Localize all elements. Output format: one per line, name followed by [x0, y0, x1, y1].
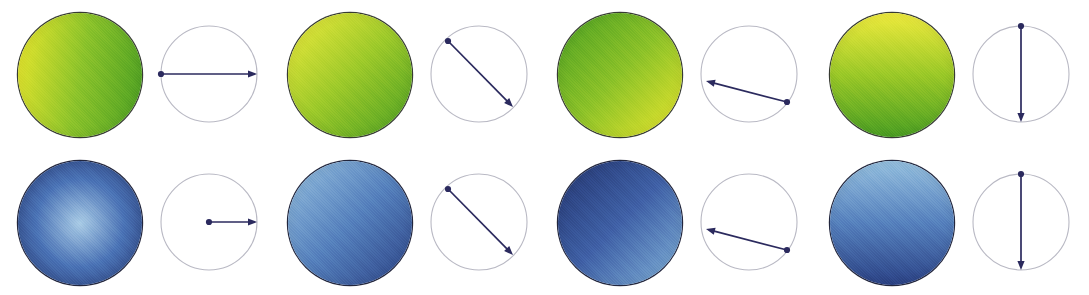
arrow-origin-dot	[1018, 171, 1024, 177]
arrow-origin-dot	[445, 38, 451, 44]
panel-1-top-cell	[0, 0, 272, 147]
blue-sphere-1	[18, 161, 142, 285]
vector-diagram-4-top	[969, 19, 1073, 129]
green-sphere-1	[18, 13, 142, 137]
panel-4	[812, 0, 1084, 295]
green-sphere-3	[558, 13, 682, 137]
arrow-origin-dot	[1018, 23, 1024, 29]
arrow-shaft	[448, 189, 508, 250]
sphere-body	[288, 161, 412, 285]
arrow-head	[248, 218, 257, 225]
panel-1	[0, 0, 272, 295]
arrow-shaft	[448, 41, 508, 102]
vector-diagram-svg	[697, 167, 801, 277]
green-sphere-2	[288, 13, 412, 137]
blue-sphere-2	[288, 161, 412, 285]
arrow-head	[706, 228, 716, 235]
arrow-shaft	[712, 231, 787, 250]
direction-arrow	[206, 218, 257, 225]
arrow-origin-dot	[206, 219, 212, 225]
sphere-body	[830, 13, 954, 137]
direction-arrow	[706, 228, 790, 253]
vector-diagram-svg	[157, 167, 261, 277]
green-sphere-4	[830, 13, 954, 137]
vector-diagram-svg	[157, 19, 261, 129]
sphere-body	[18, 161, 142, 285]
arrow-head	[1017, 113, 1024, 122]
vector-diagram-svg	[697, 19, 801, 129]
vector-diagram-svg	[427, 19, 531, 129]
direction-arrow	[445, 38, 513, 107]
diagram-circle-outline	[701, 26, 797, 122]
direction-arrow	[1017, 23, 1024, 122]
direction-arrow	[158, 70, 257, 77]
panel-2-top-cell	[270, 0, 542, 147]
panel-3-top-cell	[540, 0, 812, 147]
direction-arrow	[706, 80, 790, 105]
sphere-body	[558, 161, 682, 285]
figure-root	[0, 0, 1089, 295]
arrow-shaft	[712, 83, 787, 102]
panel-2	[270, 0, 542, 295]
vector-diagram-1-bottom	[157, 167, 261, 277]
arrow-head	[248, 70, 257, 77]
sphere-body	[18, 13, 142, 137]
panel-1-bottom-cell	[0, 148, 272, 295]
vector-diagram-svg	[427, 167, 531, 277]
vector-diagram-svg	[969, 167, 1073, 277]
arrow-head	[706, 80, 716, 87]
panel-4-top-cell	[812, 0, 1084, 147]
blue-sphere-3	[558, 161, 682, 285]
blue-sphere-4	[830, 161, 954, 285]
vector-diagram-3-top	[697, 19, 801, 129]
direction-arrow	[1017, 171, 1024, 270]
panel-3-bottom-cell	[540, 148, 812, 295]
sphere-body	[830, 161, 954, 285]
vector-diagram-3-bottom	[697, 167, 801, 277]
vector-diagram-1-top	[157, 19, 261, 129]
vector-diagram-2-bottom	[427, 167, 531, 277]
sphere-body	[288, 13, 412, 137]
vector-diagram-2-top	[427, 19, 531, 129]
vector-diagram-4-bottom	[969, 167, 1073, 277]
arrow-origin-dot	[784, 247, 790, 253]
diagram-circle-outline	[701, 174, 797, 270]
direction-arrow	[445, 186, 513, 255]
panel-4-bottom-cell	[812, 148, 1084, 295]
arrow-head	[1017, 261, 1024, 270]
panel-3	[540, 0, 812, 295]
vector-diagram-svg	[969, 19, 1073, 129]
arrow-origin-dot	[445, 186, 451, 192]
arrow-origin-dot	[784, 99, 790, 105]
arrow-origin-dot	[158, 71, 164, 77]
sphere-body	[558, 13, 682, 137]
panel-2-bottom-cell	[270, 148, 542, 295]
